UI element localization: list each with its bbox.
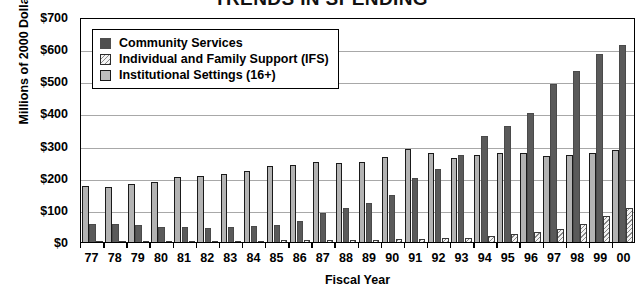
bar-inst-79 xyxy=(128,184,134,242)
bar-inst-83 xyxy=(221,174,227,242)
chart-legend: Community ServicesIndividual and Family … xyxy=(92,29,339,89)
x-axis-tick-label: 79 xyxy=(126,251,149,265)
bar-ifs-86 xyxy=(304,240,310,242)
x-axis-tick xyxy=(427,243,450,248)
x-axis-tick xyxy=(473,243,496,248)
x-axis-tick-labels: 7778798081828384858687888990919293949596… xyxy=(80,251,635,265)
bar-comm-99 xyxy=(596,54,602,242)
x-axis-tick-label: 93 xyxy=(450,251,473,265)
x-axis-tick xyxy=(149,243,172,248)
x-axis-tick xyxy=(589,243,612,248)
x-axis-tick-label: 89 xyxy=(358,251,381,265)
bar-ifs-87 xyxy=(327,240,333,242)
x-axis-tick-label: 80 xyxy=(149,251,172,265)
x-axis-tick xyxy=(126,243,149,248)
bar-comm-83 xyxy=(228,227,234,242)
bar-inst-89 xyxy=(359,162,365,242)
bar-inst-88 xyxy=(336,163,342,242)
legend-swatch-ifs xyxy=(100,54,111,65)
bar-inst-77 xyxy=(82,186,88,242)
x-axis-tick xyxy=(288,243,311,248)
x-axis-tick xyxy=(242,243,265,248)
legend-label: Individual and Family Support (IFS) xyxy=(119,52,329,66)
y-axis-tick-label: $700 xyxy=(0,12,68,25)
x-axis-tick xyxy=(219,243,242,248)
bar-ifs-81 xyxy=(189,241,195,243)
bar-ifs-80 xyxy=(166,241,172,243)
x-axis-tick-label: 96 xyxy=(519,251,542,265)
bar-comm-77 xyxy=(89,224,95,242)
bar-comm-88 xyxy=(343,208,349,242)
bar-ifs-79 xyxy=(143,241,149,243)
x-axis-tick-label: 84 xyxy=(242,251,265,265)
x-axis-tick xyxy=(496,243,519,248)
x-axis-tick-label: 99 xyxy=(589,251,612,265)
legend-item: Institutional Settings (16+) xyxy=(100,67,329,83)
x-axis-tick xyxy=(404,243,427,248)
bar-ifs-89 xyxy=(373,240,379,242)
bar-ifs-99 xyxy=(603,216,609,242)
bar-ifs-98 xyxy=(580,224,586,242)
bar-group-99 xyxy=(588,19,611,242)
bar-comm-79 xyxy=(135,225,141,242)
y-axis-tick-label: $400 xyxy=(0,108,68,121)
y-axis-tick-label: $600 xyxy=(0,44,68,57)
x-axis-tick-label: 83 xyxy=(219,251,242,265)
x-axis-tick-label: 81 xyxy=(173,251,196,265)
bar-group-90 xyxy=(381,19,404,242)
x-axis-tick xyxy=(612,243,635,248)
bar-group-94 xyxy=(473,19,496,242)
x-axis-tick-label: 90 xyxy=(381,251,404,265)
bar-inst-90 xyxy=(382,157,388,242)
bar-comm-85 xyxy=(274,225,280,242)
bar-ifs-91 xyxy=(419,239,425,242)
x-axis-tick xyxy=(566,243,589,248)
x-axis-tick-label: 77 xyxy=(80,251,103,265)
x-axis-tick xyxy=(381,243,404,248)
bar-comm-90 xyxy=(389,195,395,242)
bar-comm-82 xyxy=(205,228,211,242)
x-axis-tick xyxy=(196,243,219,248)
bar-comm-00 xyxy=(619,45,625,242)
bar-comm-80 xyxy=(158,227,164,242)
x-axis-tick xyxy=(543,243,566,248)
bar-comm-97 xyxy=(550,84,556,242)
x-axis-tick-label: 00 xyxy=(612,251,635,265)
bar-comm-94 xyxy=(481,136,487,242)
bar-ifs-92 xyxy=(442,238,448,242)
bar-inst-91 xyxy=(405,149,411,242)
y-axis-tick-label: $200 xyxy=(0,172,68,185)
bar-group-97 xyxy=(542,19,565,242)
y-axis-tick-label: $100 xyxy=(0,205,68,218)
bar-comm-86 xyxy=(297,221,303,242)
bar-ifs-82 xyxy=(212,241,218,243)
x-axis-tick-label: 94 xyxy=(473,251,496,265)
bar-ifs-93 xyxy=(465,238,471,242)
bar-comm-93 xyxy=(458,155,464,242)
bar-inst-99 xyxy=(589,153,595,242)
x-axis-tick-label: 97 xyxy=(543,251,566,265)
x-axis-tick-label: 78 xyxy=(103,251,126,265)
bar-group-91 xyxy=(404,19,427,242)
x-axis-tick xyxy=(173,243,196,248)
y-axis-tick-labels: $700$600$500$400$300$200$100$0 xyxy=(0,18,74,243)
bar-ifs-95 xyxy=(511,234,517,242)
bar-comm-81 xyxy=(182,227,188,242)
bar-ifs-90 xyxy=(396,239,402,242)
bar-ifs-96 xyxy=(534,232,540,242)
bar-group-96 xyxy=(519,19,542,242)
bar-group-00 xyxy=(611,19,634,242)
x-axis-tick-label: 87 xyxy=(311,251,334,265)
bar-ifs-78 xyxy=(119,241,125,243)
x-axis-title: Fiscal Year xyxy=(80,273,635,287)
bar-inst-92 xyxy=(428,153,434,242)
legend-label: Community Services xyxy=(119,36,243,50)
x-axis-tick xyxy=(265,243,288,248)
bar-inst-98 xyxy=(566,155,572,242)
chart-title: TRENDS IN SPENDING xyxy=(0,0,642,10)
bar-inst-94 xyxy=(474,155,480,242)
bar-ifs-00 xyxy=(626,208,632,242)
x-axis-tick-label: 86 xyxy=(288,251,311,265)
legend-item: Community Services xyxy=(100,35,329,51)
bar-inst-82 xyxy=(197,176,203,242)
